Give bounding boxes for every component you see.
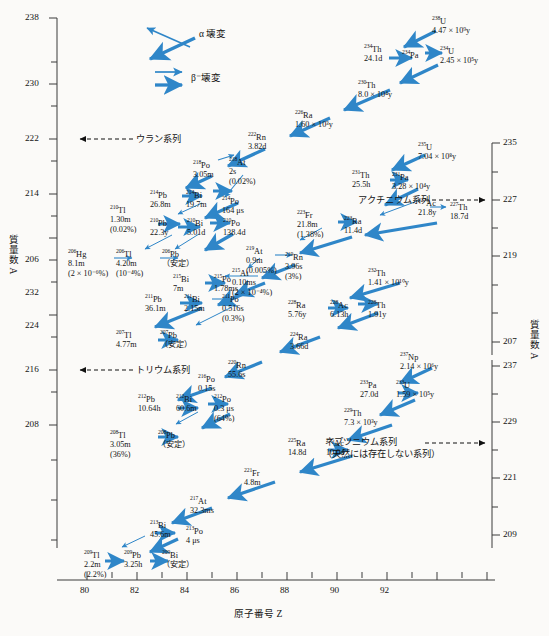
mass-number: 207 [160,329,168,335]
half-life: 3.05m [110,440,131,450]
nuclide-ra223: 223Ra11.4d [344,214,362,236]
mass-number: 221 [244,467,252,473]
nuclide-symbol: 223Fr [297,211,313,220]
y-left-tick-216: 216 [25,364,39,374]
nuclide-symbol: 238U [432,17,446,26]
mass-number: 238 [432,15,440,21]
y-right-tick-219: 219 [503,250,517,260]
nuclide-symbol: 210Tl [110,206,126,215]
mass-number: 223 [344,215,352,221]
mass-number: 233 [396,379,404,385]
mass-number: 216 [198,373,206,379]
nuclide-ac225: 225Ac10.0d [326,436,344,458]
decay-chain-figure: α 壊変 β⁻壊変 ウラン系列 アクチニウム系列 トリウム系列 ネプツニウム系列… [0,0,549,636]
y-right-tick-229: 229 [503,416,517,426]
nuclide-symbol: 213Bi [150,521,166,530]
nuclide-symbol: 210Bi [187,219,203,228]
x-tick-88: 88 [280,585,289,595]
nuclide-symbol: 214Pb [150,191,167,200]
half-life: 25.5h [352,180,370,190]
nuclide-symbol: 212Bi [176,395,192,404]
nuclide-th227: 227Th18.7d [450,200,468,222]
mass-number: 210 [110,204,118,210]
half-life: 10.64h [138,404,161,414]
legend-beta-label: β⁻壊変 [191,70,221,84]
mass-number: 222 [248,131,256,137]
nuclide-th231: 231Th25.5h [352,168,370,190]
half-life: 1.60 × 10³y [295,120,333,130]
nuclide-symbol: 227Ac [418,199,436,208]
half-life: 19.7m [186,200,207,210]
mass-number: 212 [138,393,146,399]
nuclide-symbol: 232Th [368,269,385,278]
mass-number: 213 [186,525,194,531]
nuclide-ra228: 228Ra5.76y [288,298,306,320]
y-left-tick-232: 232 [25,287,39,297]
nuclide-symbol: 220Rn [228,361,246,370]
nuclide-u238: 238U4.47 × 10⁹y [432,14,470,36]
nuclide-tl210: 210Tl1.30m(0.02%) [110,203,137,235]
mass-number: 213 [150,519,158,525]
left-axis-ticks [49,18,57,540]
nuclide-ac228: 228Ac6.13h [330,298,348,320]
nuclide-pa234: 234Pa [402,48,418,60]
mass-number: 215 [214,273,222,279]
y-left-tick-224: 224 [25,320,39,330]
legend-beta-arrows [155,72,182,85]
nuclide-po216: 216Po0.15s [198,372,216,394]
x-tick-92: 92 [380,585,389,595]
nuclide-hg206: 206Hg8.1m(2 × 10⁻⁶%) [68,247,108,279]
nuclide-th230: 230Th8.0 × 10⁴y [358,78,392,100]
mass-number: 207 [116,329,124,335]
mass-number: 230 [358,79,366,85]
nuclide-symbol: 234Pa [402,51,418,60]
x-tick-86: 86 [230,585,239,595]
nuclide-po215: 215Po1.78ms [214,272,238,294]
half-life: 0.516s [222,304,245,314]
nuclide-symbol: 212Po [214,395,231,404]
nuclide-symbol: 223Ra [344,217,361,226]
nuclide-np237: 237Np2.14 × 10⁶y [400,350,438,372]
mass-number: 208 [158,429,166,435]
mass-number: 210 [187,217,195,223]
mass-number: 211 [184,293,192,299]
nuclide-bi210: 210Bi5.01d [187,216,205,238]
half-life: 5.01d [187,228,205,238]
half-life: 3.66d [290,342,308,352]
nuclide-po213: 213Po4 μs [186,524,203,546]
nuclide-u234: 234U2.45 × 10⁵y [440,44,478,66]
half-life: 3.05m [193,170,214,180]
mass-number: 229 [344,407,352,413]
y-left-tick-222: 222 [25,133,39,143]
half-life: 32.3ms [190,506,214,516]
nuclide-symbol: 215Po [214,275,231,284]
branch-percent: (3%) [285,272,303,282]
y-right-tick-207: 207 [503,336,517,346]
nuclide-symbol: 221Fr [244,469,260,478]
nuclide-symbol: 206Hg [68,250,86,259]
x-tick-84: 84 [180,585,189,595]
half-life: 18.7d [450,212,468,222]
nuclide-symbol: 208Tl [110,431,126,440]
nuclide-th228: 228Th1.91y [368,298,386,320]
y-right-tick-209: 209 [503,529,517,539]
half-life: 10.0d [326,448,344,458]
nuclide-u235: 235U7.04 × 10⁸y [418,140,456,162]
nuclide-symbol: 208Pb [158,431,175,440]
nuclide-ac227: 227Ac21.8y [418,196,436,218]
nuclide-pb214: 214Pb26.8m [150,188,171,210]
nuclide-u233: 233U1.59 × 10⁵y [396,378,434,400]
legend-alpha-arrows [147,28,195,59]
mass-number: 228 [288,299,296,305]
nuclide-symbol: 237Np [400,353,418,362]
x-tick-80: 80 [80,585,89,595]
half-life: 4.77m [116,340,137,350]
x-axis-title: 原子番号 Z [234,606,282,620]
half-life: 6.13h [330,310,348,320]
mass-number: 234 [402,49,410,55]
nuclide-symbol: 228Ra [288,301,305,310]
half-life: 0.3 μs [214,404,234,414]
branch-percent: (10⁻⁴%) [116,269,143,279]
half-life: （安定） [162,259,194,269]
nuclide-tl208: 208Tl3.05m(36%) [110,428,131,460]
